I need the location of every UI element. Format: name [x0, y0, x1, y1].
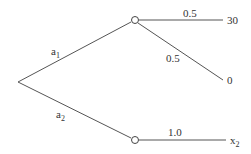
probability-label-bottom: 1.0 [168, 126, 182, 138]
payoff-label-0: 0 [227, 74, 233, 86]
chance-node-bottom [132, 137, 139, 144]
decision-label-a2: a2 [56, 108, 65, 123]
payoff-label-x2: x2 [230, 134, 240, 149]
edge-a2 [18, 82, 131, 138]
decision-label-a1: a1 [51, 45, 60, 60]
edge-top-outcome-0 [138, 23, 223, 80]
decision-tree-diagram: a1 a2 0.5 0.5 1.0 30 0 x2 [0, 0, 251, 154]
probability-label-top: 0.5 [183, 7, 197, 19]
payoff-label-30: 30 [227, 14, 239, 26]
probability-label-middle: 0.5 [166, 52, 180, 64]
chance-node-top [132, 17, 139, 24]
edge-a1 [18, 22, 131, 82]
